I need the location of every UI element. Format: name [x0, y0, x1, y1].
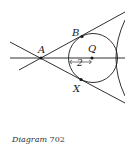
label-a: A	[37, 44, 45, 55]
lower-tangent-line	[10, 42, 125, 103]
point-q-dot	[90, 56, 93, 59]
point-a-dot	[39, 56, 42, 59]
figure-caption: Diagram 702	[12, 135, 65, 144]
radius-label: 2	[76, 58, 83, 68]
point-x-dot	[79, 78, 82, 81]
point-b-dot	[80, 35, 83, 38]
label-q: Q	[88, 43, 96, 54]
label-b: B	[71, 27, 79, 38]
upper-tangent-line	[19, 12, 125, 70]
geometry-diagram: A B Q X 2	[0, 0, 125, 146]
caption-number: 702	[50, 135, 65, 144]
caption-word: Diagram	[12, 135, 47, 144]
label-x: X	[72, 83, 81, 94]
